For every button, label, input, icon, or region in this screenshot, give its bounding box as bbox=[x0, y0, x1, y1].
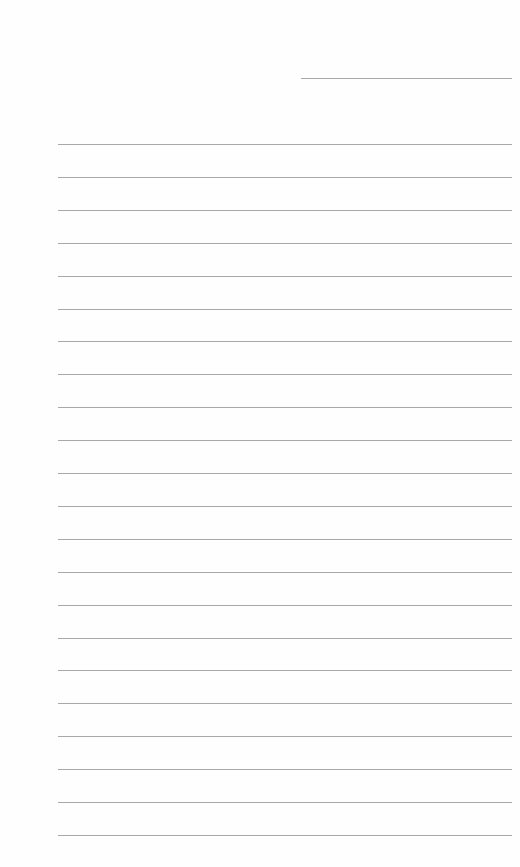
ruled-line bbox=[58, 835, 512, 836]
ruled-line bbox=[58, 440, 512, 441]
ruled-line bbox=[58, 341, 512, 342]
lined-paper-page bbox=[0, 0, 520, 867]
ruled-line bbox=[58, 703, 512, 704]
ruled-line bbox=[58, 309, 512, 310]
ruled-line bbox=[58, 736, 512, 737]
ruled-line bbox=[58, 605, 512, 606]
header-name-line bbox=[301, 78, 512, 79]
ruled-line bbox=[58, 473, 512, 474]
ruled-line bbox=[58, 802, 512, 803]
ruled-line bbox=[58, 572, 512, 573]
ruled-line bbox=[58, 407, 512, 408]
ruled-line bbox=[58, 374, 512, 375]
ruled-line bbox=[58, 539, 512, 540]
ruled-line bbox=[58, 243, 512, 244]
ruled-line bbox=[58, 638, 512, 639]
ruled-line bbox=[58, 506, 512, 507]
ruled-line bbox=[58, 177, 512, 178]
ruled-line bbox=[58, 210, 512, 211]
ruled-line bbox=[58, 144, 512, 145]
ruled-line bbox=[58, 276, 512, 277]
ruled-line bbox=[58, 769, 512, 770]
ruled-line bbox=[58, 670, 512, 671]
